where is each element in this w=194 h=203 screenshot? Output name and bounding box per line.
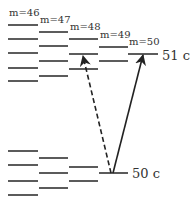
column-label: m=50 — [129, 36, 160, 47]
solid-transition-arrow — [113, 55, 143, 173]
column-label: m=48 — [70, 21, 101, 32]
diagram-canvas: m=46m=47m=48m=49m=50 51 c50 c — [0, 0, 194, 203]
column-labels: m=46m=47m=48m=49m=50 — [9, 7, 160, 47]
state-label: 51 c — [162, 48, 190, 63]
column-label: m=46 — [9, 7, 40, 18]
column-label: m=47 — [40, 14, 71, 25]
state-labels: 51 c50 c — [132, 48, 190, 181]
transition-arrows — [83, 55, 143, 173]
column-label: m=49 — [100, 29, 131, 40]
dashed-transition-arrow — [83, 56, 111, 173]
energy-level-diagram: m=46m=47m=48m=49m=50 51 c50 c — [0, 0, 194, 203]
state-label: 50 c — [132, 166, 160, 181]
